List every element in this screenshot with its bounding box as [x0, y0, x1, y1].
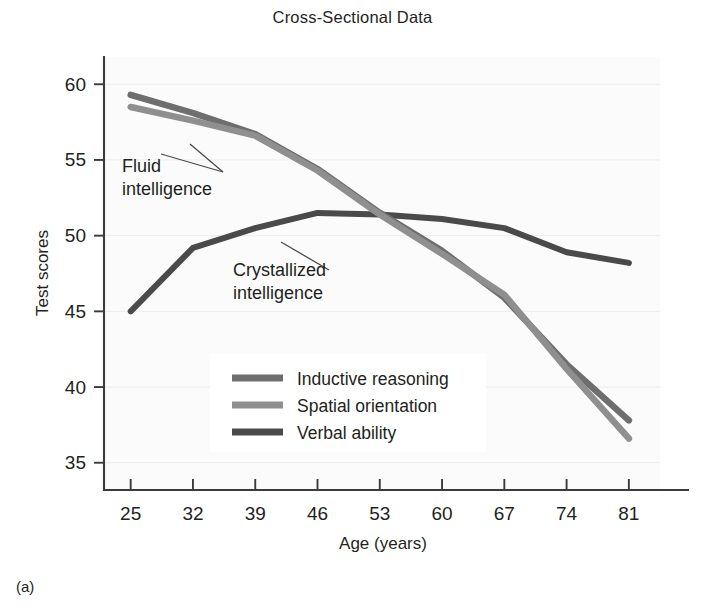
y-tick-label: 35	[65, 452, 86, 473]
x-tick-label: 53	[369, 503, 390, 524]
x-tick-label: 32	[182, 503, 203, 524]
chart-legend: Inductive reasoningSpatial orientationVe…	[210, 354, 486, 452]
y-tick-label: 40	[65, 377, 86, 398]
y-axis-ticks	[94, 84, 104, 462]
y-tick-label: 55	[65, 149, 86, 170]
x-tick-label: 39	[245, 503, 266, 524]
y-tick-label: 50	[65, 225, 86, 246]
figure-panel-label: (a)	[16, 578, 34, 595]
y-axis-title: Test scores	[33, 230, 52, 316]
annotation-crystallized-line2: intelligence	[233, 283, 323, 303]
y-axis-tick-labels: 354045505560	[65, 74, 86, 473]
legend-label-spatial-orientation: Spatial orientation	[297, 396, 437, 416]
x-axis-tick-labels: 253239465360677481	[120, 503, 639, 524]
legend-label-inductive-reasoning: Inductive reasoning	[297, 369, 449, 389]
legend-label-verbal-ability: Verbal ability	[297, 423, 396, 443]
y-tick-label: 45	[65, 301, 86, 322]
x-axis-title: Age (years)	[339, 534, 427, 553]
line-chart: 354045505560 253239465360677481 Test sco…	[0, 20, 705, 580]
figure-container: Cross-Sectional Data 354045505560 253239…	[0, 0, 705, 613]
x-tick-label: 60	[431, 503, 452, 524]
x-tick-label: 25	[120, 503, 141, 524]
annotation-fluid-line1: Fluid	[122, 156, 161, 176]
annotation-crystallized-line1: Crystallized	[233, 260, 326, 280]
x-tick-label: 46	[307, 503, 328, 524]
x-tick-label: 67	[494, 503, 515, 524]
annotation-fluid-line2: intelligence	[122, 179, 212, 199]
x-tick-label: 81	[618, 503, 639, 524]
y-tick-label: 60	[65, 74, 86, 95]
x-tick-label: 74	[556, 503, 578, 524]
